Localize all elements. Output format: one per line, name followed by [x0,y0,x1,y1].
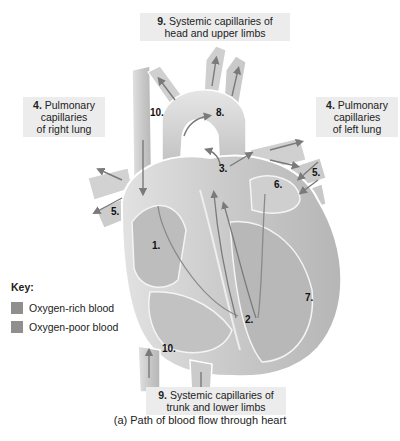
marker-5-left: 5. [111,206,119,217]
label-text: capillaries [321,111,393,123]
label-text: of left lung [321,123,393,135]
marker-2: 2. [245,314,253,325]
label-text: Systemic capillaries of [169,15,273,27]
label-text: trunk and lower limbs [151,401,281,413]
label-text: capillaries [28,111,100,123]
marker-5-right: 5. [312,167,320,178]
label-text: Systemic capillaries of [170,389,274,401]
legend-title: Key: [11,281,118,293]
oxygen-rich-swatch [11,302,23,314]
marker-6: 6. [274,179,282,190]
label-text: head and upper limbs [145,27,285,39]
label-pulmonary-left: 4. Pulmonary capillaries of left lung [316,97,398,137]
oxygen-poor-swatch [11,321,23,333]
marker-7: 7. [305,292,313,303]
marker-10-top: 10. [150,107,164,118]
label-systemic-trunk: 9. Systemic capillaries of trunk and low… [146,387,286,415]
label-number: 4. [33,99,42,111]
legend-label: Oxygen-poor blood [29,321,118,333]
marker-8: 8. [216,107,224,118]
label-number: 9. [158,389,167,401]
legend-label: Oxygen-rich blood [29,302,114,314]
label-systemic-head: 9. Systemic capillaries of head and uppe… [140,13,290,41]
label-number: 9. [157,15,166,27]
label-text: Pulmonary [45,99,95,111]
figure-caption: (a) Path of blood flow through heart [0,414,400,426]
marker-3: 3. [219,163,227,174]
legend-item-oxygen-rich: Oxygen-rich blood [11,298,118,317]
marker-10-bottom: 10. [162,343,176,354]
legend: Key: Oxygen-rich blood Oxygen-poor blood [11,281,118,336]
label-text: Pulmonary [338,99,388,111]
label-text: of right lung [28,123,100,135]
label-pulmonary-right: 4. Pulmonary capillaries of right lung [23,97,105,137]
legend-item-oxygen-poor: Oxygen-poor blood [11,317,118,336]
marker-1: 1. [152,240,160,251]
heart-illustration [0,0,400,441]
label-number: 4. [326,99,335,111]
